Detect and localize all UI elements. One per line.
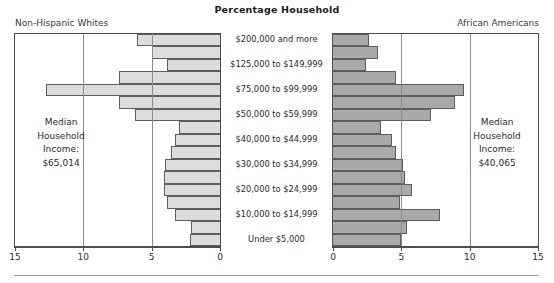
right-median-income-annotation: Median Household Income: $40,065 [458,116,536,170]
table-row [15,46,220,58]
bar-right-4 [333,84,464,96]
bar-left-1 [152,46,220,58]
bar-right-7 [333,121,381,133]
axis-tick-label: 0 [217,252,223,262]
bar-left-7 [179,121,220,133]
left-group-label: Non-Hispanic Whites [15,18,108,28]
category-row: $40,000 to $44,999 [221,133,332,145]
table-row [15,196,220,208]
table-row [333,234,538,246]
table-row [15,96,220,108]
category-row [221,45,332,57]
table-row [15,71,220,83]
right-median-line-3: Income: [458,143,536,157]
table-row [333,71,538,83]
category-label: $75,000 to $99,999 [235,84,317,94]
left-median-line-3: Income: [22,143,100,157]
bar-right-3 [333,71,396,83]
category-row: $20,000 to $24,999 [221,183,332,195]
table-row [333,34,538,46]
bar-right-16 [333,234,401,246]
bar-left-5 [119,96,220,108]
population-pyramid-chart: Percentage Household Non-Hispanic Whites… [0,0,554,283]
right-median-line-2: Household [458,130,536,144]
gridline-5 [401,34,402,246]
category-row [221,120,332,132]
axis-tick-label: 5 [149,252,155,262]
gridline-5 [152,34,153,246]
bar-left-3 [119,71,220,83]
right-group-label: African Americans [457,18,539,28]
table-row [333,221,538,233]
table-row [333,209,538,221]
axis-tick-label: 5 [398,252,404,262]
axis-tick [538,247,539,251]
bar-left-15 [191,221,220,233]
bar-right-2 [333,59,366,71]
table-row [15,59,220,71]
category-row [221,195,332,207]
category-row: $30,000 to $34,999 [221,158,332,170]
axis-tick-label: 15 [532,252,543,262]
left-median-income-annotation: Median Household Income: $65,014 [22,116,100,170]
category-row [221,145,332,157]
bar-left-0 [137,34,220,46]
bar-left-11 [164,171,220,183]
bar-left-2 [167,59,220,71]
bar-left-10 [165,159,220,171]
category-label: $20,000 to $24,999 [235,184,317,194]
bar-right-0 [333,34,369,46]
axis-tick [470,247,471,251]
category-row: $200,000 and more [221,33,332,45]
bar-right-1 [333,46,378,58]
bar-left-6 [135,109,220,121]
bar-left-8 [175,134,220,146]
bar-right-15 [333,221,407,233]
table-row [333,171,538,183]
axis-tick-label: 15 [9,252,20,262]
bar-right-11 [333,171,405,183]
category-label: $125,000 to $149,999 [230,59,323,69]
table-row [15,171,220,183]
table-row [333,196,538,208]
category-row [221,95,332,107]
table-row [333,46,538,58]
axis-tick [401,247,402,251]
category-row: $75,000 to $99,999 [221,83,332,95]
category-label: $30,000 to $34,999 [235,159,317,169]
axis-tick-label: 10 [464,252,475,262]
category-label-column: $200,000 and more$125,000 to $149,999$75… [221,33,332,247]
axis-tick [220,247,221,251]
table-row [15,84,220,96]
table-row [333,84,538,96]
bar-right-10 [333,159,403,171]
table-row [15,209,220,221]
bar-left-14 [175,209,220,221]
category-label: $200,000 and more [236,34,318,44]
axis-tick-label: 10 [78,252,89,262]
axis-tick [333,247,334,251]
page-title: Percentage Household [0,4,554,15]
bar-left-16 [190,234,220,246]
bar-right-5 [333,96,455,108]
table-row [15,234,220,246]
table-row [15,34,220,46]
category-row [221,220,332,232]
bar-left-4 [46,84,220,96]
bar-left-13 [167,196,220,208]
bar-right-14 [333,209,440,221]
axis-tick [83,247,84,251]
left-median-line-1: Median [22,116,100,130]
bar-right-8 [333,134,392,146]
axis-tick [152,247,153,251]
category-label: $10,000 to $14,999 [235,209,317,219]
table-row [15,221,220,233]
table-row [333,96,538,108]
axis-tick-label: 0 [330,252,336,262]
left-median-value: $65,014 [22,157,100,171]
bar-right-13 [333,196,400,208]
right-x-axis [332,247,539,248]
category-row: $10,000 to $14,999 [221,208,332,220]
left-x-axis [14,247,221,248]
category-label: $50,000 to $59,999 [235,109,317,119]
